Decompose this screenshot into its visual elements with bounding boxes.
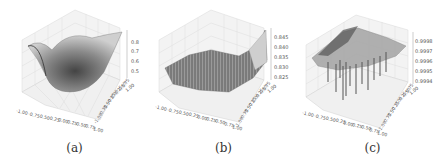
subplot-a: 0.80.70.60.5 -1.00 -0.75 -0.50 -0.25 0.0… — [0, 0, 149, 165]
caption-b: (b) — [149, 141, 298, 155]
svg-text:0.825: 0.825 — [274, 74, 288, 80]
caption-c: (c) — [298, 141, 447, 155]
caption-a: (a) — [0, 141, 149, 155]
svg-text:0.9997: 0.9997 — [415, 48, 433, 54]
svg-text:0.7: 0.7 — [131, 48, 139, 54]
subplot-c: 0.99980.99970.9996 0.99950.9994 -1.00 -0… — [298, 0, 447, 165]
svg-text:0.5: 0.5 — [131, 68, 139, 74]
svg-text:0.845: 0.845 — [274, 34, 288, 40]
svg-text:0.9996: 0.9996 — [415, 58, 433, 64]
svg-text:-1.00: -1.00 — [155, 104, 168, 112]
surface-plot-b: 0.8450.8400.835 0.8300.825 -1.00 -0.75 -… — [149, 0, 298, 140]
svg-text:0.9995: 0.9995 — [415, 68, 433, 74]
svg-text:0.835: 0.835 — [274, 54, 288, 60]
svg-text:0.830: 0.830 — [274, 64, 288, 70]
svg-text:0.6: 0.6 — [131, 58, 139, 64]
surface-plot-a: 0.80.70.60.5 -1.00 -0.75 -0.50 -0.25 0.0… — [0, 0, 149, 140]
svg-text:-1.00: -1.00 — [16, 108, 29, 116]
svg-text:-1.00: -1.00 — [302, 110, 315, 118]
subplot-b: 0.8450.8400.835 0.8300.825 -1.00 -0.75 -… — [149, 0, 298, 165]
svg-text:0.9994: 0.9994 — [415, 78, 433, 84]
svg-text:0.8: 0.8 — [131, 39, 139, 45]
svg-text:1.00: 1.00 — [93, 126, 104, 133]
svg-text:0.9998: 0.9998 — [415, 38, 433, 44]
surface-plot-c: 0.99980.99970.9996 0.99950.9994 -1.00 -0… — [298, 0, 448, 140]
svg-text:0.840: 0.840 — [274, 44, 288, 50]
